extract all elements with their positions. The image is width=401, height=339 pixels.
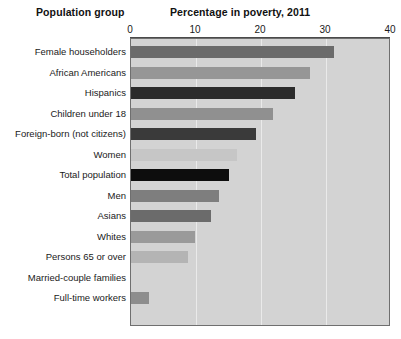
x-axis-tick-40: 40 (384, 24, 395, 35)
bar-row (131, 207, 389, 228)
bar-row (131, 146, 389, 167)
category-label: Asians (0, 206, 126, 227)
bar (131, 87, 295, 99)
bar (131, 149, 237, 161)
bar-row (131, 228, 389, 249)
category-labels: Female householdersAfrican AmericansHisp… (0, 38, 126, 326)
category-label: Female householders (0, 42, 126, 63)
category-label: Men (0, 186, 126, 207)
percentage-title: Percentage in poverty, 2011 (170, 6, 310, 18)
bar (131, 251, 188, 263)
bar-row (131, 187, 389, 208)
bar (131, 67, 310, 79)
category-label: Married-couple families (0, 268, 126, 289)
plot-area (130, 38, 390, 326)
category-label: Persons 65 or over (0, 247, 126, 268)
category-label: Full-time workers (0, 288, 126, 309)
bar-row (131, 248, 389, 269)
category-label: Women (0, 145, 126, 166)
bar-row (131, 269, 389, 290)
bar (131, 128, 256, 140)
bar-row (131, 105, 389, 126)
bar (131, 210, 211, 222)
bar-row (131, 289, 389, 310)
bar-row (131, 43, 389, 64)
category-label: African Americans (0, 63, 126, 84)
bar-row (131, 166, 389, 187)
chart-headers: Population group Percentage in poverty, … (0, 6, 401, 22)
bar (131, 190, 219, 202)
population-group-title: Population group (36, 6, 125, 18)
bar-rows (131, 39, 389, 325)
bar-row (131, 84, 389, 105)
bar (131, 169, 229, 181)
category-label: Children under 18 (0, 104, 126, 125)
category-label: Foreign-born (not citizens) (0, 124, 126, 145)
poverty-bar-chart: Population group Percentage in poverty, … (0, 0, 401, 339)
x-axis-tick-30: 30 (319, 24, 330, 35)
bar (131, 108, 273, 120)
x-axis-tick-0: 0 (127, 24, 133, 35)
x-axis-tick-10: 10 (189, 24, 200, 35)
x-axis: 010203040 (0, 24, 401, 38)
bar (131, 46, 334, 58)
category-label: Total population (0, 165, 126, 186)
bar (131, 292, 149, 304)
x-axis-tick-20: 20 (254, 24, 265, 35)
category-label: Hispanics (0, 83, 126, 104)
bar-row (131, 125, 389, 146)
bar (131, 231, 195, 243)
bar-row (131, 64, 389, 85)
category-label: Whites (0, 227, 126, 248)
